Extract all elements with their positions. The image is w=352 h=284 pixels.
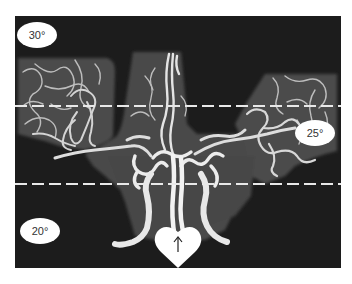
angle-label-25-text: 25°: [307, 127, 324, 139]
angle-label-25: 25°: [295, 120, 335, 146]
angle-label-30: 30°: [17, 22, 57, 48]
angiography-image: [15, 16, 341, 268]
angle-label-20-text: 20°: [32, 225, 49, 237]
angle-label-30-text: 30°: [29, 29, 46, 41]
angiography-figure: 30° 25° 20°: [15, 16, 341, 268]
angle-label-20: 20°: [20, 218, 60, 244]
